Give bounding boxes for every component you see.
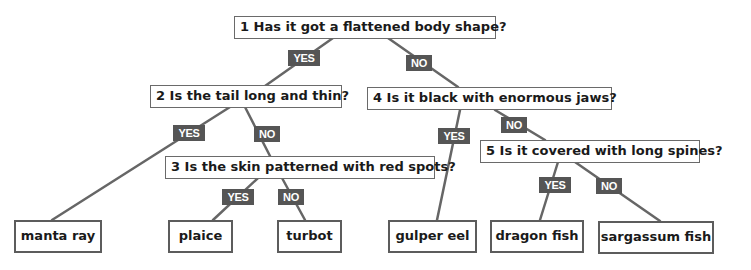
no-tag-q5: NO xyxy=(596,178,622,194)
leaf-gulper-eel: gulper eel xyxy=(388,220,477,253)
yes-tag-q5: YES xyxy=(539,177,571,193)
no-tag-q2: NO xyxy=(254,126,280,142)
yes-tag-q4: YES xyxy=(438,128,470,144)
leaf-sargassum-fish: sargassum fish xyxy=(598,221,714,254)
question-1-box: 1 Has it got a flattened body shape? xyxy=(234,16,496,39)
question-5-box: 5 Is it covered with long spines? xyxy=(480,140,700,163)
leaf-dragon-fish: dragon fish xyxy=(490,220,584,253)
no-tag-q1: NO xyxy=(406,55,432,71)
fish-identification-key: 1 Has it got a flattened body shape? 2 I… xyxy=(0,0,751,270)
question-3-box: 3 Is the skin patterned with red spots? xyxy=(165,156,435,179)
leaf-plaice: plaice xyxy=(168,220,233,253)
leaf-turbot: turbot xyxy=(277,220,342,253)
leaf-manta-ray: manta ray xyxy=(14,220,102,253)
yes-tag-q1: YES xyxy=(288,50,320,66)
yes-tag-q2: YES xyxy=(173,125,205,141)
no-tag-q4: NO xyxy=(501,117,527,133)
yes-tag-q3: YES xyxy=(222,189,254,205)
question-4-box: 4 Is it black with enormous jaws? xyxy=(367,87,612,110)
no-tag-q3: NO xyxy=(278,189,304,205)
question-2-box: 2 Is the tail long and thin? xyxy=(150,85,342,108)
